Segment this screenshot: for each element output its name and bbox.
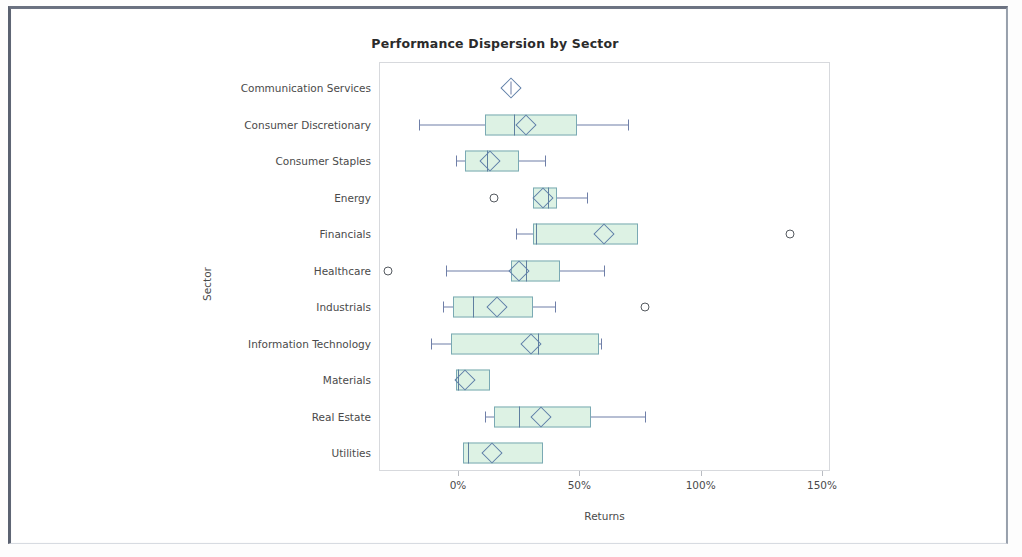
x-axis-tick-mark (822, 471, 823, 476)
x-axis-tick-label: 0% (450, 479, 467, 491)
median-line (473, 297, 474, 318)
whisker-low-line (446, 270, 512, 271)
whisker-low-line (456, 161, 466, 162)
y-axis-title: Sector (201, 267, 213, 301)
whisker-low-cap (446, 265, 447, 276)
whisker-high-line (591, 416, 644, 417)
whisker-low-cap (419, 119, 420, 130)
outlier-point (490, 193, 499, 202)
y-axis-tick-label: Real Estate (149, 411, 379, 423)
whisker-high-line (560, 270, 604, 271)
whisker-low-line (516, 234, 533, 235)
x-axis-tick-label: 100% (686, 479, 716, 491)
page-background: Performance Dispersion by Sector Communi… (0, 0, 1022, 557)
x-axis-tick-label: 150% (807, 479, 837, 491)
y-axis-tick-label: Industrials (149, 301, 379, 313)
whisker-low-cap (431, 338, 432, 349)
median-line (536, 224, 537, 245)
whisker-high-cap (587, 192, 588, 203)
boxplot-chart: Performance Dispersion by Sector Communi… (0, 0, 1022, 557)
whisker-high-cap (628, 119, 629, 130)
whisker-high-cap (601, 338, 602, 349)
y-axis-tick-label: Utilities (149, 447, 379, 459)
whisker-high-cap (604, 265, 605, 276)
x-axis-title: Returns (379, 510, 830, 522)
outlier-point (786, 230, 795, 239)
outlier-point (640, 303, 649, 312)
y-axis-tick-label: Communication Services (149, 82, 379, 94)
median-line (519, 406, 520, 427)
x-axis-tick-label: 50% (568, 479, 591, 491)
y-axis-tick-label: Consumer Staples (149, 155, 379, 167)
y-axis-tick-label: Healthcare (149, 265, 379, 277)
y-axis-tick-label: Energy (149, 192, 379, 204)
whisker-low-cap (443, 302, 444, 313)
whisker-high-cap (545, 156, 546, 167)
x-axis-tick-mark (579, 471, 580, 476)
whisker-high-line (519, 161, 546, 162)
whisker-low-line (431, 343, 450, 344)
whisker-high-cap (645, 411, 646, 422)
y-axis-tick-label: Consumer Discretionary (149, 119, 379, 131)
box (463, 443, 543, 464)
whisker-low-cap (516, 229, 517, 240)
y-axis-tick-label: Materials (149, 374, 379, 386)
whisker-high-cap (555, 302, 556, 313)
outlier-point (383, 266, 392, 275)
x-axis-tick-mark (701, 471, 702, 476)
whisker-low-line (419, 124, 485, 125)
median-line (468, 443, 469, 464)
whisker-high-line (557, 197, 586, 198)
whisker-high-line (533, 307, 555, 308)
whisker-high-line (577, 124, 628, 125)
y-axis-tick-label: Information Technology (149, 338, 379, 350)
box (533, 224, 637, 245)
whisker-low-cap (456, 156, 457, 167)
whisker-low-line (485, 416, 495, 417)
whisker-low-line (443, 307, 453, 308)
whisker-low-cap (485, 411, 486, 422)
y-axis-tick-labels: Communication ServicesConsumer Discretio… (140, 0, 379, 557)
y-axis-tick-label: Financials (149, 228, 379, 240)
x-axis-tick-mark (458, 471, 459, 476)
chart-title-text: Performance Dispersion by Sector (371, 36, 618, 51)
